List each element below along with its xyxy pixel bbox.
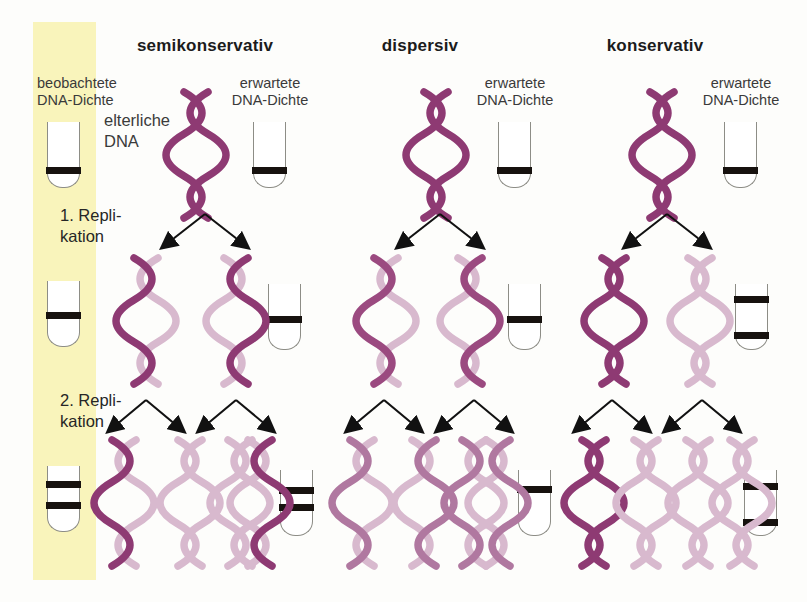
helix-konservativ-row3-1 [566, 440, 618, 566]
arrow-split-semikonservativ-2a [100, 398, 192, 438]
tube-semikonservativ-row3 [280, 470, 313, 536]
helix-semikonservativ-row2-2 [208, 258, 260, 384]
tube-band [46, 312, 81, 319]
tube-body [724, 122, 757, 188]
observed-density-caption-line2: DNA-Dichte [37, 92, 117, 109]
expected-caption-line2: DNA-Dichte [460, 92, 570, 109]
arrow-split-dispersiv-2a [338, 398, 430, 438]
arrow-split-semikonservativ-1 [150, 212, 260, 254]
model-title-dispersiv: dispersiv [340, 36, 500, 56]
tube-body [47, 466, 80, 532]
helix-semikonservativ-row2-1 [118, 258, 170, 384]
tube-band [252, 167, 287, 174]
expected-density-caption-semikonservativ: erwartete DNA-Dichte [215, 75, 325, 109]
tube-body [253, 122, 286, 188]
helix-dispersiv-row2-1 [358, 258, 410, 384]
tube-dispersiv-row2 [508, 284, 541, 350]
helix-konservativ-row3-2 [618, 440, 670, 566]
helix-semikonservativ-row1-1 [168, 92, 220, 218]
tube-konservativ-row1 [724, 122, 757, 188]
arrow-split-konservativ-1 [612, 212, 722, 254]
helix-dispersiv-row3-2 [396, 440, 448, 566]
expected-density-caption-konservativ: erwartete DNA-Dichte [686, 75, 796, 109]
helix-dispersiv-row2-2 [442, 258, 494, 384]
helix-konservativ-row2-1 [586, 258, 638, 384]
tube-band [723, 167, 758, 174]
expected-caption-line1: erwartete [686, 75, 796, 92]
helix-konservativ-row3-4 [714, 440, 766, 566]
tube-band [46, 167, 81, 174]
arrow-split-semikonservativ-2b [190, 398, 282, 438]
tube-band [46, 481, 81, 488]
arrow-split-dispersiv-1 [385, 212, 495, 254]
replication-models-figure: semikonservativ dispersiv konservativ be… [0, 0, 807, 602]
helix-konservativ-row2-2 [672, 258, 724, 384]
tube-body [518, 470, 551, 536]
arrow-split-konservativ-2a [566, 398, 658, 438]
expected-caption-line1: erwartete [460, 75, 570, 92]
tube-body [498, 122, 531, 188]
parental-dna-label-line1: elterliche [104, 110, 170, 131]
tube-observed-row1 [47, 122, 80, 188]
tube-body [280, 470, 313, 536]
tube-body [47, 122, 80, 188]
expected-caption-line1: erwartete [215, 75, 325, 92]
stage1-line2: kation [60, 226, 121, 247]
parental-dna-label-line2: DNA [104, 131, 170, 152]
model-title-konservativ: konservativ [565, 36, 745, 56]
tube-dispersiv-row1 [498, 122, 531, 188]
expected-density-caption-dispersiv: erwartete DNA-Dichte [460, 75, 570, 109]
observed-density-caption-line1: beobachtete [37, 75, 117, 92]
tube-semikonservativ-row2 [268, 284, 301, 350]
tube-dispersiv-row3 [518, 470, 551, 536]
tube-band [497, 167, 532, 174]
tube-band [267, 316, 302, 323]
tube-band [46, 502, 81, 509]
observed-density-caption: beobachtete DNA-Dichte [37, 75, 117, 109]
helix-dispersiv-row1-1 [408, 92, 460, 218]
parental-dna-label: elterliche DNA [104, 110, 170, 152]
tube-band [734, 332, 769, 339]
tube-observed-row3 [47, 466, 80, 532]
stage-label-replication-1: 1. Repli- kation [60, 205, 121, 247]
tube-semikonservativ-row1 [253, 122, 286, 188]
tube-konservativ-row2 [735, 284, 768, 350]
tube-body [735, 284, 768, 350]
model-title-semikonservativ: semikonservativ [115, 36, 295, 56]
helix-dispersiv-row3-1 [334, 440, 386, 566]
tube-band [734, 296, 769, 303]
arrow-split-dispersiv-2b [428, 398, 520, 438]
expected-caption-line2: DNA-Dichte [686, 92, 796, 109]
helix-konservativ-row1-1 [634, 92, 686, 218]
arrow-split-konservativ-2b [656, 398, 748, 438]
tube-observed-row2 [47, 281, 80, 347]
stage1-line1: 1. Repli- [60, 205, 121, 226]
helix-semikonservativ-row3-4 [232, 440, 284, 566]
helix-semikonservativ-row3-1 [96, 440, 148, 566]
expected-caption-line2: DNA-Dichte [215, 92, 325, 109]
helix-semikonservativ-row3-2 [162, 440, 214, 566]
tube-band [507, 316, 542, 323]
helix-dispersiv-row3-4 [470, 440, 522, 566]
